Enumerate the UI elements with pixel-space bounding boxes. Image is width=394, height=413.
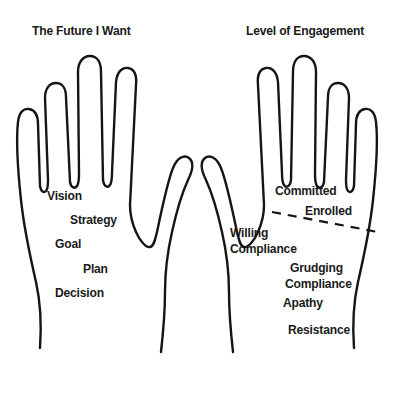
label-committed: Committed — [275, 183, 336, 198]
label-vision: Vision — [47, 188, 82, 203]
label-plan: Plan — [83, 261, 108, 276]
label-decision: Decision — [55, 285, 104, 300]
label-willing: Willing — [230, 225, 268, 240]
page-title-engagement: Level of Engagement — [246, 23, 364, 38]
label-goal: Goal — [55, 236, 81, 251]
two-hands-diagram: The Future I Want Vision Strategy Goal P… — [0, 0, 394, 413]
page-title-future: The Future I Want — [32, 23, 130, 38]
label-strategy: Strategy — [70, 212, 117, 227]
label-grudging-compliance: Compliance — [285, 276, 352, 291]
left-hand-outline — [17, 56, 192, 352]
label-willing-compliance: Compliance — [230, 241, 297, 256]
label-apathy: Apathy — [283, 295, 323, 310]
label-enrolled: Enrolled — [305, 203, 352, 218]
label-grudging: Grudging — [290, 260, 343, 275]
label-resistance: Resistance — [288, 322, 350, 337]
